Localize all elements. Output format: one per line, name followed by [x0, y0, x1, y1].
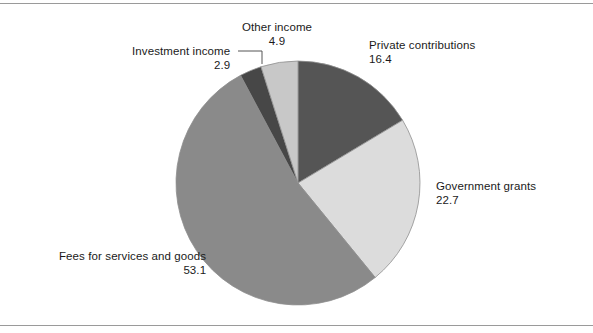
slice-label-name: Government grants — [436, 180, 536, 192]
slice-label-government-grants: Government grants 22.7 — [436, 179, 536, 207]
slice-label-value: 2.9 — [132, 58, 230, 72]
slice-label-name: Investment income — [132, 45, 230, 57]
investment-income-leader-line — [238, 51, 262, 64]
figure-container: Private contributions 16.4 Government gr… — [0, 0, 593, 333]
slice-label-name: Fees for services and goods — [59, 250, 206, 262]
slice-label-value: 22.7 — [436, 193, 536, 207]
pie-slice-group — [176, 61, 420, 305]
slice-label-value: 16.4 — [369, 52, 475, 66]
slice-label-other-income: Other income 4.9 — [229, 20, 325, 48]
slice-label-value: 4.9 — [229, 34, 325, 48]
slice-label-name: Private contributions — [369, 39, 475, 51]
slice-label-name: Other income — [242, 21, 312, 33]
slice-label-investment-income: Investment income 2.9 — [132, 44, 230, 72]
pie-chart-plot — [0, 0, 593, 333]
slice-label-value: 53.1 — [59, 263, 206, 277]
slice-label-fees-for-services-and-goods: Fees for services and goods 53.1 — [59, 249, 206, 277]
slice-label-private-contributions: Private contributions 16.4 — [369, 38, 475, 66]
